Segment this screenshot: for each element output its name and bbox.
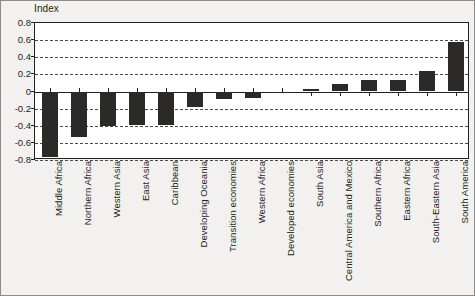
x-axis-category-label: Western Asia	[111, 161, 122, 217]
y-axis-tick-labels: 0.80.60.40.20-0.2-0.4-0.6-0.8	[1, 22, 31, 159]
y-axis-tick-label: 0.4	[5, 51, 31, 62]
bar	[187, 92, 203, 107]
x-axis-category-label: South-Eastern Asia	[430, 161, 441, 243]
x-axis-tick-mark	[108, 88, 109, 92]
x-axis-category-label: East Asia	[140, 161, 151, 201]
y-axis-tick-label: 0.8	[5, 17, 31, 28]
x-axis-tick-mark	[224, 88, 225, 92]
x-axis-category-label: Eastern Africa	[401, 161, 412, 221]
x-axis-tick-mark	[79, 88, 80, 92]
y-axis-tick-label: 0.6	[5, 34, 31, 45]
bar	[245, 92, 261, 99]
y-axis-tick-label: 0	[5, 85, 31, 96]
plot-area	[34, 22, 469, 159]
x-axis-tick-mark	[398, 92, 399, 96]
bar	[332, 84, 348, 92]
bar	[42, 92, 58, 158]
bar	[448, 42, 464, 92]
y-axis-tick-label: -0.8	[5, 154, 31, 165]
x-axis-category-label: South Asia	[314, 161, 325, 207]
x-axis-category-label: Central America and Mexico	[343, 161, 354, 281]
bar	[274, 92, 290, 93]
bar	[129, 92, 145, 125]
x-axis-category-label: Middle Africa	[53, 161, 64, 216]
y-axis-tick-label: 0.2	[5, 68, 31, 79]
x-axis-category-label: Northern Africa	[82, 161, 93, 225]
x-axis-tick-mark	[427, 92, 428, 96]
x-axis-category-label: Transition economies	[227, 161, 238, 252]
x-axis-tick-mark	[50, 88, 51, 92]
x-axis-category-label: Southern Africa	[372, 161, 383, 227]
axis-unit-label: Index	[34, 3, 59, 14]
bar	[419, 71, 435, 92]
x-axis-tick-mark	[253, 88, 254, 92]
bar-series	[35, 23, 468, 159]
y-axis-tick-label: -0.6	[5, 136, 31, 147]
x-axis-tick-mark	[195, 88, 196, 92]
x-axis-tick-mark	[282, 88, 283, 92]
x-axis-tick-mark	[340, 92, 341, 96]
bar	[158, 92, 174, 125]
x-axis-category-label: South America	[459, 161, 470, 223]
x-axis-category-label: Caribbean	[169, 161, 180, 205]
x-axis-category-label: Developed economies	[285, 161, 296, 256]
x-axis-tick-mark	[456, 92, 457, 96]
bar	[390, 80, 406, 91]
bar	[71, 92, 87, 137]
bar	[100, 92, 116, 126]
x-axis-baseline	[34, 158, 469, 159]
y-axis-tick-label: -0.2	[5, 102, 31, 113]
bar	[216, 92, 232, 100]
x-axis-tick-mark	[369, 92, 370, 96]
x-axis-category-label: Developing Oceania	[198, 161, 209, 247]
x-axis-tick-mark	[311, 92, 312, 96]
x-axis-tick-mark	[137, 88, 138, 92]
y-axis-tick-label: -0.4	[5, 119, 31, 130]
bar	[361, 80, 377, 91]
chart-figure: Index 0.80.60.40.20-0.2-0.4-0.6-0.8 Midd…	[0, 0, 475, 296]
x-axis-tick-mark	[166, 88, 167, 92]
x-axis-category-labels: Middle AfricaNorthern AfricaWestern Asia…	[34, 161, 469, 295]
x-axis-category-label: Western Africa	[256, 161, 267, 223]
